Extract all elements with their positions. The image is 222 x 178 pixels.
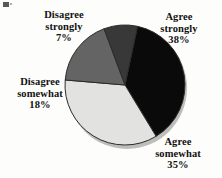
slice-label-agree-somewhat: Agree somewhat 35%	[140, 136, 216, 171]
slice-label-line2: strongly	[22, 21, 106, 33]
slice-label-line2: strongly	[146, 23, 212, 35]
slice-label-line1: Disagree	[1, 76, 79, 88]
slice-label-line1: Agree	[146, 11, 212, 23]
slice-value-agree-somewhat: 35%	[140, 159, 216, 171]
slice-label-line1: Disagree	[22, 9, 106, 21]
slice-label-agree-strongly: Agree strongly 38%	[146, 11, 212, 46]
slice-label-line2: somewhat	[1, 88, 79, 100]
slice-label-disagree-somewhat: Disagree somewhat 18%	[1, 76, 79, 111]
pie-chart-figure: Disagree strongly 7% Agree strongly 38% …	[0, 0, 222, 178]
slice-label-line2: somewhat	[140, 148, 216, 160]
slice-label-disagree-strongly: Disagree strongly 7%	[22, 9, 106, 44]
slice-value-disagree-somewhat: 18%	[1, 99, 79, 111]
slice-value-disagree-strongly: 7%	[22, 32, 106, 44]
slice-value-agree-strongly: 38%	[146, 34, 212, 46]
slice-label-line1: Agree	[140, 136, 216, 148]
